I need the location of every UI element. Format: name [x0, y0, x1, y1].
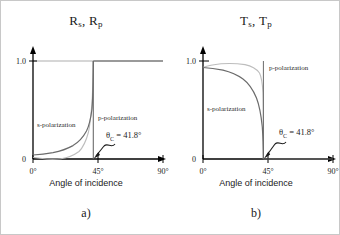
- panel-a-title-sub-2: p: [98, 19, 103, 29]
- critical-angle-annotation: θC = 41.8°: [106, 130, 141, 142]
- panel-a-title: Rs, Rp: [1, 13, 171, 29]
- x-ticklabel-45: 45°: [92, 167, 103, 176]
- panel-b: Ts, Tp 1.0 0 0° 45° 90°: [171, 1, 340, 235]
- panel-b-title-sep: ,: [252, 13, 259, 28]
- x-ticklabel-90: 90°: [327, 167, 338, 176]
- critical-angle-annotation: θC = 41.8°: [279, 127, 314, 139]
- y-axis-arrowhead: [30, 46, 36, 54]
- y-ticklabel-top: 1.0: [16, 57, 26, 66]
- y-axis-arrowhead: [200, 46, 206, 54]
- panel-b-caption: b): [171, 206, 340, 221]
- theta-value: = 41.8°: [287, 127, 314, 137]
- panel-a-plot: 1.0 0 0° 45° 90° s-polarization p-polari…: [1, 41, 171, 176]
- x-ticklabel-0: 0°: [199, 167, 206, 176]
- label-s-polarization: s-polarization: [37, 121, 76, 129]
- panel-a-caption: a): [1, 206, 171, 221]
- curve-s-polarization: [203, 68, 263, 160]
- annotation-squiggle: [275, 142, 286, 144]
- annotation-squiggle: [104, 144, 115, 146]
- panel-b-title-main-2: T: [259, 13, 267, 28]
- panel-b-title-main-1: T: [240, 13, 248, 28]
- x-ticklabel-0: 0°: [29, 167, 36, 176]
- panel-a-title-sep: ,: [82, 13, 89, 28]
- theta-value: = 41.8°: [114, 130, 141, 140]
- figure-container: Rs, Rp 1.0 0 0° 45° 90°: [0, 0, 340, 235]
- label-p-polarization: p-polarization: [98, 114, 138, 122]
- label-s-polarization: s-polarization: [207, 105, 246, 113]
- curve-p-polarization: [33, 61, 93, 159]
- x-axis-arrowhead: [158, 156, 166, 162]
- panel-a: Rs, Rp 1.0 0 0° 45° 90°: [1, 1, 171, 235]
- panel-b-title-sub-2: p: [267, 19, 272, 29]
- y-ticklabel-bottom: 0: [22, 155, 26, 164]
- label-p-polarization: p-polarization: [269, 64, 309, 72]
- panel-b-plot: 1.0 0 0° 45° 90° s-polarization p-polari…: [171, 41, 340, 176]
- panel-a-title-main-1: R: [69, 13, 78, 28]
- x-ticklabel-45: 45°: [262, 167, 273, 176]
- panel-a-title-main-2: R: [89, 13, 98, 28]
- curve-s-polarization: [33, 61, 93, 155]
- panel-a-xaxis-label: Angle of incidence: [1, 178, 171, 188]
- panel-b-title: Ts, Tp: [171, 13, 340, 29]
- panel-a-title-sub-1: s: [78, 19, 82, 29]
- y-ticklabel-bottom: 0: [192, 155, 196, 164]
- y-ticklabel-top: 1.0: [186, 57, 196, 66]
- x-ticklabel-90: 90°: [157, 167, 168, 176]
- panel-b-xaxis-label: Angle of incidence: [171, 178, 340, 188]
- panel-b-title-sub-1: s: [248, 19, 252, 29]
